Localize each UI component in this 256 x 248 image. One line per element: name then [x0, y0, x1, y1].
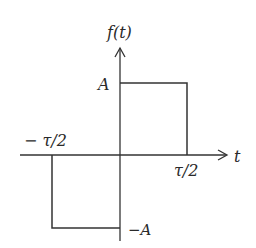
positive-pulse	[120, 83, 187, 155]
neg-half-width-label: − τ/2	[24, 131, 67, 150]
pos-amplitude-label: A	[96, 75, 110, 94]
negative-pulse	[52, 155, 120, 228]
pos-half-width-label: τ/2	[174, 161, 198, 180]
y-axis-label: f(t)	[106, 23, 132, 42]
pulse-diagram: f(t) t A −A − τ/2 τ/2	[0, 0, 256, 248]
x-axis-label: t	[234, 147, 241, 166]
neg-amplitude-label: −A	[128, 221, 152, 239]
